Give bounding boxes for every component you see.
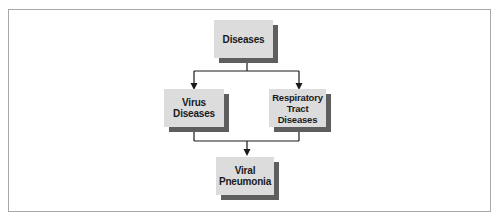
arrowhead-icon [244,149,251,156]
node-label: Diseases [223,34,265,45]
node-box: Respiratory Tract Diseases [269,89,326,127]
node-label-line: Diseases [278,114,318,125]
node-label-line: Respiratory [272,92,323,103]
node-box: Virus Diseases [164,89,224,127]
node-label-line: Tract [287,103,309,114]
node-label-line: Viral [235,165,256,176]
node-box: Viral Pneumonia [216,157,274,195]
node-box: Diseases [214,20,273,58]
node-label-line: Virus [182,97,206,108]
node-label-line: Pneumonia [219,176,271,187]
node-label-line: Diseases [173,108,215,119]
